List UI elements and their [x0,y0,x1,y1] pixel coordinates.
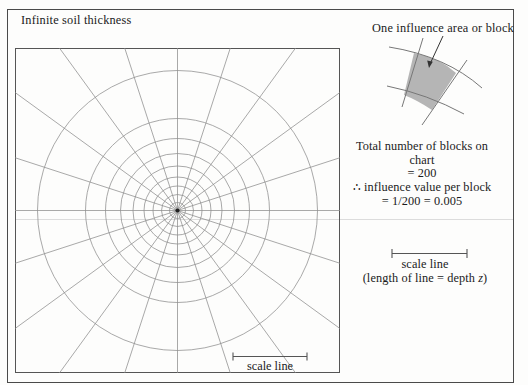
total-blocks-text: Total number of blocks on chart = 200 [347,140,497,181]
chart-center-dot [175,208,179,212]
influence-block-title: One influence area or block [372,21,514,36]
chart-scale-label: scale line [247,359,294,373]
chart-scale-line: scale line [233,353,307,374]
influence-value-line2: = 1/200 = 0.005 [347,195,497,209]
figure-canvas: Infinite soil thickness scale line One i… [0,0,528,385]
influence-value-line1: ∴ influence value per block [347,181,497,195]
figure-title: Infinite soil thickness [21,13,131,28]
total-blocks-line2: = 200 [347,167,497,181]
newmark-chart: scale line [15,48,340,373]
total-blocks-line1: Total number of blocks on chart [347,140,497,167]
influence-block-sketch [380,35,490,130]
legend-scale-label: scale line [354,258,496,272]
influence-value-text: ∴ influence value per block = 1/200 = 0.… [347,181,497,208]
legend-scale-caption: scale line (length of line = depth z) [354,258,496,285]
legend-scale-note: (length of line = depth z) [354,272,496,286]
